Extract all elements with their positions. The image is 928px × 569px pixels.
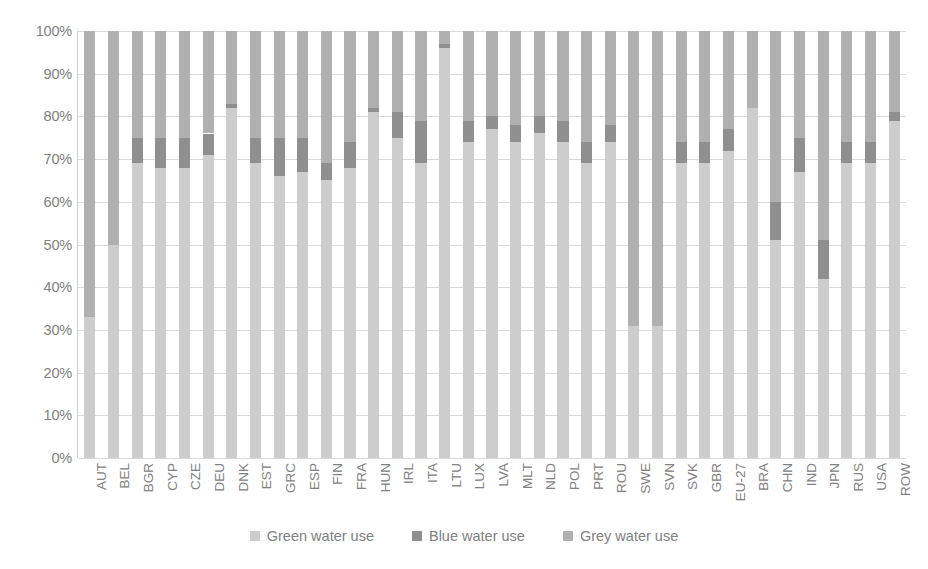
bar-segment-grey-water-use[interactable] (155, 31, 166, 138)
bar-segment-grey-water-use[interactable] (652, 31, 663, 326)
bar-fra[interactable] (344, 31, 355, 458)
bar-segment-blue-water-use[interactable] (321, 163, 332, 180)
bar-segment-grey-water-use[interactable] (770, 31, 781, 202)
bar-segment-grey-water-use[interactable] (534, 31, 545, 116)
bar-bel[interactable] (108, 31, 119, 458)
bar-segment-grey-water-use[interactable] (84, 31, 95, 317)
bar-segment-green-water-use[interactable] (439, 48, 450, 458)
bar-segment-green-water-use[interactable] (344, 168, 355, 458)
bar-eu-27[interactable] (723, 31, 734, 458)
bar-segment-green-water-use[interactable] (368, 112, 379, 458)
bar-segment-blue-water-use[interactable] (392, 112, 403, 138)
bar-segment-grey-water-use[interactable] (723, 31, 734, 129)
bar-segment-grey-water-use[interactable] (344, 31, 355, 142)
bar-segment-grey-water-use[interactable] (699, 31, 710, 142)
bar-gbr[interactable] (699, 31, 710, 458)
bar-segment-green-water-use[interactable] (132, 163, 143, 458)
legend-item[interactable]: Grey water use (563, 528, 678, 544)
bar-segment-blue-water-use[interactable] (770, 202, 781, 240)
bar-segment-blue-water-use[interactable] (155, 138, 166, 168)
bar-irl[interactable] (392, 31, 403, 458)
bar-segment-blue-water-use[interactable] (132, 138, 143, 164)
bar-segment-green-water-use[interactable] (250, 163, 261, 458)
bar-segment-green-water-use[interactable] (889, 121, 900, 458)
bar-segment-green-water-use[interactable] (676, 163, 687, 458)
bar-segment-grey-water-use[interactable] (581, 31, 592, 142)
bar-hun[interactable] (368, 31, 379, 458)
bar-segment-grey-water-use[interactable] (510, 31, 521, 125)
bar-segment-grey-water-use[interactable] (274, 31, 285, 138)
bar-segment-green-water-use[interactable] (652, 326, 663, 458)
bar-fin[interactable] (321, 31, 332, 458)
bar-segment-grey-water-use[interactable] (321, 31, 332, 163)
bar-segment-blue-water-use[interactable] (699, 142, 710, 163)
bar-segment-green-water-use[interactable] (770, 240, 781, 458)
bar-lux[interactable] (463, 31, 474, 458)
bar-segment-grey-water-use[interactable] (297, 31, 308, 138)
bar-segment-blue-water-use[interactable] (889, 112, 900, 121)
bar-segment-green-water-use[interactable] (321, 180, 332, 458)
bar-segment-green-water-use[interactable] (415, 163, 426, 458)
bar-segment-green-water-use[interactable] (841, 163, 852, 458)
bar-est[interactable] (250, 31, 261, 458)
bar-segment-grey-water-use[interactable] (132, 31, 143, 138)
bar-grc[interactable] (274, 31, 285, 458)
bar-segment-grey-water-use[interactable] (415, 31, 426, 121)
bar-segment-blue-water-use[interactable] (368, 108, 379, 112)
bar-ita[interactable] (415, 31, 426, 458)
bar-segment-blue-water-use[interactable] (581, 142, 592, 163)
bar-segment-blue-water-use[interactable] (226, 104, 237, 108)
bar-cyp[interactable] (155, 31, 166, 458)
bar-segment-grey-water-use[interactable] (605, 31, 616, 125)
bar-segment-green-water-use[interactable] (226, 108, 237, 458)
bar-segment-blue-water-use[interactable] (203, 134, 214, 155)
bar-segment-green-water-use[interactable] (818, 279, 829, 458)
bar-rou[interactable] (605, 31, 616, 458)
bar-segment-grey-water-use[interactable] (794, 31, 805, 138)
bar-segment-green-water-use[interactable] (723, 151, 734, 458)
bar-segment-blue-water-use[interactable] (605, 125, 616, 142)
bar-segment-green-water-use[interactable] (605, 142, 616, 458)
bar-segment-green-water-use[interactable] (747, 108, 758, 458)
bar-segment-green-water-use[interactable] (628, 326, 639, 458)
bar-segment-green-water-use[interactable] (203, 155, 214, 458)
bar-segment-grey-water-use[interactable] (439, 31, 450, 44)
bar-segment-grey-water-use[interactable] (676, 31, 687, 142)
bar-segment-grey-water-use[interactable] (179, 31, 190, 138)
bar-segment-green-water-use[interactable] (510, 142, 521, 458)
bar-segment-green-water-use[interactable] (155, 168, 166, 458)
bar-prt[interactable] (581, 31, 592, 458)
bar-segment-grey-water-use[interactable] (557, 31, 568, 121)
bar-chn[interactable] (770, 31, 781, 458)
bar-segment-green-water-use[interactable] (392, 138, 403, 458)
bar-segment-grey-water-use[interactable] (841, 31, 852, 142)
bar-segment-grey-water-use[interactable] (486, 31, 497, 116)
bar-segment-green-water-use[interactable] (865, 163, 876, 458)
bar-bra[interactable] (747, 31, 758, 458)
bar-segment-blue-water-use[interactable] (723, 129, 734, 150)
bar-segment-grey-water-use[interactable] (203, 31, 214, 133)
bar-segment-green-water-use[interactable] (534, 133, 545, 458)
bar-segment-grey-water-use[interactable] (747, 31, 758, 108)
bar-segment-green-water-use[interactable] (557, 142, 568, 458)
bar-ind[interactable] (794, 31, 805, 458)
legend-item[interactable]: Green water use (250, 528, 374, 544)
bar-segment-blue-water-use[interactable] (344, 142, 355, 168)
bar-segment-blue-water-use[interactable] (179, 138, 190, 168)
bar-segment-blue-water-use[interactable] (415, 121, 426, 164)
bar-segment-grey-water-use[interactable] (392, 31, 403, 112)
bar-segment-blue-water-use[interactable] (250, 138, 261, 164)
bar-segment-grey-water-use[interactable] (226, 31, 237, 104)
bar-segment-blue-water-use[interactable] (676, 142, 687, 163)
bar-segment-blue-water-use[interactable] (557, 121, 568, 142)
bar-segment-blue-water-use[interactable] (463, 121, 474, 142)
bar-segment-blue-water-use[interactable] (841, 142, 852, 163)
bar-row[interactable] (889, 31, 900, 458)
bar-segment-blue-water-use[interactable] (818, 240, 829, 278)
bar-deu[interactable] (203, 31, 214, 458)
bar-esp[interactable] (297, 31, 308, 458)
bar-segment-blue-water-use[interactable] (865, 142, 876, 163)
bar-aut[interactable] (84, 31, 95, 458)
bar-segment-blue-water-use[interactable] (297, 138, 308, 172)
bar-usa[interactable] (865, 31, 876, 458)
